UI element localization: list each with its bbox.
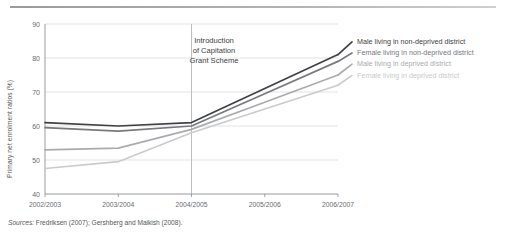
legend-leader-line [338, 53, 352, 61]
source-note: Sources: Fredriksen (2007); Gershberg an… [8, 219, 182, 226]
y-tick-label: 90 [32, 21, 40, 28]
x-axis-tick-labels: 2002/20032003/20042004/20052005/20062006… [29, 201, 354, 208]
annotation-line-3: Grant Scheme [190, 56, 239, 65]
annotation-line-1: Introduction [194, 36, 234, 45]
x-tick-label: 2003/2004 [102, 201, 134, 208]
x-tick-label: 2002/2003 [29, 201, 61, 208]
legend-leader-line [338, 42, 352, 55]
annotation-line-2: of Capitation [193, 46, 236, 55]
source-prefix: Sources: [8, 219, 34, 226]
legend-label: Female living in non-deprived district [357, 48, 474, 57]
source-text: Fredriksen (2007); Gershberg and Maikish… [34, 219, 182, 226]
legend-leader-line [338, 64, 352, 75]
y-tick-label: 60 [32, 123, 40, 130]
x-tick-label: 2006/2007 [322, 201, 354, 208]
legend-label: Male living in deprived district [357, 59, 451, 68]
y-tick-label: 80 [32, 55, 40, 62]
legend-label: Male living in non-deprived district [357, 37, 465, 46]
y-tick-label: 50 [32, 157, 40, 164]
y-tick-label: 40 [32, 191, 40, 198]
x-tick-label: 2004/2005 [175, 201, 207, 208]
y-tick-label: 70 [32, 89, 40, 96]
legend-leader-lines [338, 42, 352, 85]
legend: Male living in non-deprived districtFema… [357, 37, 474, 80]
chart-figure: 405060708090 2002/20032003/20042004/2005… [0, 0, 506, 238]
x-tick-label: 2005/2006 [249, 201, 281, 208]
y-axis-title: Primary net enrolment ratios (%) [6, 80, 14, 178]
legend-label: Female living in deprived district [357, 71, 459, 80]
legend-leader-line [338, 75, 352, 85]
line-chart: 405060708090 2002/20032003/20042004/2005… [0, 0, 506, 238]
y-axis-tick-labels: 405060708090 [32, 21, 40, 198]
